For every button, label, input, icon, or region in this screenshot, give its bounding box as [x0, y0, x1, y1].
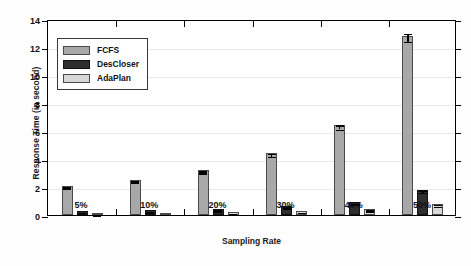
- x-axis-label: 50%: [413, 200, 431, 210]
- y-axis-label: 0: [35, 212, 40, 222]
- error-bar-cap: [131, 183, 139, 184]
- legend-label: AdaPlan: [97, 73, 131, 83]
- bar-fcfs-50pct: [402, 36, 413, 215]
- y-tick: [42, 77, 48, 78]
- y-axis-label: 2: [35, 184, 40, 194]
- x-axis-label: 40%: [345, 200, 363, 210]
- bar-fcfs-5pct: [62, 186, 73, 215]
- x-tick-top: [184, 21, 185, 27]
- error-bar-cap: [63, 188, 71, 189]
- y-axis-label: 12: [30, 44, 40, 54]
- error-bar-cap: [434, 207, 442, 208]
- legend-item-descloser: DesCloser: [63, 57, 139, 71]
- x-axis-label: 5%: [75, 200, 88, 210]
- y-tick: [42, 105, 48, 106]
- y-tick-right: [455, 133, 461, 134]
- y-axis-label: 8: [35, 100, 40, 110]
- x-tick-bottom: [253, 209, 254, 215]
- y-tick-right: [455, 21, 461, 22]
- x-tick-top: [321, 21, 322, 27]
- error-bar-cap: [214, 211, 222, 212]
- x-tick-top: [253, 21, 254, 27]
- error-bar-cap: [146, 212, 154, 213]
- legend-label: FCFS: [97, 45, 119, 55]
- y-axis-label: 4: [35, 156, 40, 166]
- y-tick-right: [455, 105, 461, 106]
- y-tick: [42, 189, 48, 190]
- error-bar-cap: [268, 154, 276, 155]
- y-axis-label: 10: [30, 72, 40, 82]
- legend-swatch-icon: [63, 60, 90, 69]
- gridline: [48, 105, 455, 106]
- error-bar-cap: [199, 173, 207, 174]
- x-tick-top: [116, 21, 117, 27]
- x-tick-top: [389, 21, 390, 27]
- legend-item-fcfs: FCFS: [63, 43, 139, 57]
- error-bar-cap: [161, 215, 169, 216]
- error-bar-cap: [78, 213, 86, 214]
- x-tick-bottom: [116, 209, 117, 215]
- error-bar-cap: [419, 191, 427, 192]
- x-tick-bottom: [389, 209, 390, 215]
- y-tick: [42, 21, 48, 22]
- y-axis-label: 14: [30, 16, 40, 26]
- y-tick-right: [455, 217, 461, 218]
- y-tick: [42, 133, 48, 134]
- error-bar-cap: [404, 42, 412, 43]
- error-bar-cap: [404, 34, 412, 35]
- x-axis-title: Sampling Rate: [47, 236, 456, 246]
- gridline: [48, 161, 455, 162]
- bar-fcfs-10pct: [130, 180, 141, 215]
- x-tick-bottom: [321, 209, 322, 215]
- error-bar-cap: [93, 216, 101, 217]
- y-tick-right: [455, 49, 461, 50]
- y-axis-label: 6: [35, 128, 40, 138]
- y-tick: [42, 161, 48, 162]
- y-tick-right: [455, 161, 461, 162]
- error-bar-cap: [268, 157, 276, 158]
- gridline: [48, 133, 455, 134]
- y-tick: [42, 217, 48, 218]
- error-bar-cap: [419, 193, 427, 194]
- x-tick-bottom: [184, 209, 185, 215]
- x-axis-label: 30%: [277, 200, 295, 210]
- y-tick: [42, 49, 48, 50]
- x-axis-label: 20%: [208, 200, 226, 210]
- legend-label: DesCloser: [97, 59, 139, 69]
- x-axis-label: 10%: [140, 200, 158, 210]
- error-bar-cap: [366, 211, 374, 212]
- bar-chart: Response Time (in second) 02468101214 5%…: [0, 0, 471, 266]
- y-tick-right: [455, 77, 461, 78]
- error-bar-cap: [336, 125, 344, 126]
- legend-swatch-icon: [63, 46, 90, 55]
- error-bar-cap: [229, 214, 237, 215]
- bar-fcfs-30pct: [266, 153, 277, 215]
- legend-item-adaplan: AdaPlan: [63, 71, 139, 85]
- gridline: [48, 189, 455, 190]
- error-bar-cap: [298, 213, 306, 214]
- bar-fcfs-20pct: [198, 170, 209, 215]
- legend-swatch-icon: [63, 74, 90, 83]
- chart-legend: FCFSDesCloserAdaPlan: [57, 38, 148, 90]
- bar-fcfs-40pct: [334, 125, 345, 215]
- error-bar-cap: [336, 130, 344, 131]
- y-tick-right: [455, 189, 461, 190]
